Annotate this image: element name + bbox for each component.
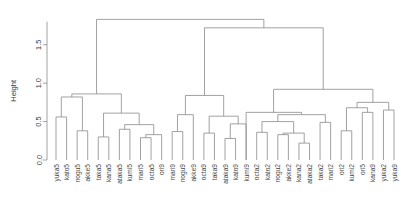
leaf-label: kato2 — [264, 164, 271, 180]
leaf-label: nogu5 — [74, 164, 82, 183]
dendrogram-branch — [274, 89, 373, 112]
dendrogram-branch — [177, 115, 193, 160]
dendrogram-branch — [357, 102, 389, 110]
leaf-label: taka9 — [211, 164, 218, 180]
y-axis-tick-label: 1.0 — [35, 78, 44, 88]
dendrogram-branch — [209, 116, 238, 133]
dendrogram-branch — [362, 112, 373, 160]
y-axis-tick-label: 0.5 — [35, 116, 44, 126]
leaf-label: kana9 — [369, 164, 376, 182]
leaf-label: mari2 — [327, 164, 334, 181]
leaf-label: ataka5 — [116, 164, 123, 184]
leaf-label: kato9 — [232, 164, 239, 180]
dendrogram-branch — [185, 95, 223, 116]
dendrogram-branch — [56, 117, 67, 160]
leaf-label: kumi2 — [348, 164, 355, 182]
dendrogram-branch — [299, 143, 310, 160]
dendrogram-branch — [341, 131, 352, 160]
y-axis-tick-label: 1.5 — [35, 40, 44, 50]
dendrogram-branch — [346, 108, 367, 131]
leaf-label: kato5 — [63, 164, 70, 180]
dendrogram-branch — [225, 138, 236, 160]
y-axis-ticks: 0.00.51.01.5 — [35, 40, 48, 166]
leaf-label: kana2 — [295, 164, 302, 182]
leaf-label: kumi5 — [126, 164, 133, 182]
dendrogram-branch — [230, 124, 246, 160]
dendrogram-branch — [61, 97, 82, 131]
leaf-label: nogu9 — [179, 164, 187, 183]
leaf-label: ori5 — [359, 164, 366, 175]
leaf-label: mari5 — [137, 164, 144, 181]
leaf-label: yuka9 — [391, 164, 399, 182]
axis-group: 0.00.51.01.5 Height — [10, 22, 48, 165]
dendrogram-branch — [77, 131, 88, 160]
leaf-label: octa2 — [253, 164, 260, 180]
leaf-label: nogu2 — [274, 164, 282, 183]
dendrogram-branch — [246, 112, 301, 160]
dendrogram-branch — [205, 28, 324, 96]
leaf-label: akke9 — [190, 164, 197, 182]
leaf-label: ataka2 — [306, 164, 313, 184]
leaf-label: ataka9 — [222, 164, 229, 184]
leaf-label: octa9 — [200, 164, 207, 180]
leaf-label: yuka2 — [380, 164, 388, 182]
dendrogram-branch — [383, 110, 394, 160]
dendrogram-branch — [278, 135, 289, 160]
dendrogram-branch — [119, 129, 130, 160]
leaf-label: ori2 — [338, 164, 345, 175]
dendrogram-branch — [172, 132, 183, 160]
dendrogram-branch — [257, 132, 268, 160]
leaf-labels: yuka5kato5nogu5akke5taka5kana5ataka5kumi… — [53, 164, 399, 184]
dendrogram-branch — [98, 137, 109, 160]
y-axis-tick-label: 0.0 — [35, 155, 44, 165]
leaf-label: ori9 — [158, 164, 165, 175]
leaf-label: kumi9 — [243, 164, 250, 182]
dendrogram-branch — [141, 138, 152, 160]
dendrogram-branch — [204, 133, 215, 160]
y-axis-title: Height — [10, 79, 19, 102]
leaf-label: akke2 — [285, 164, 292, 182]
leaf-label: yuka5 — [53, 164, 61, 182]
leaf-label: taka5 — [95, 164, 102, 180]
dendrogram-branches — [56, 19, 394, 160]
dendrogram-branch — [262, 122, 294, 134]
dendrogram-branch — [97, 19, 264, 94]
dendrogram-plot: 0.00.51.01.5 Height yuka5kato5nogu5akke5… — [0, 0, 406, 215]
leaf-label: mari9 — [169, 164, 176, 181]
dendrogram-branch — [146, 135, 162, 160]
leaf-label: akke5 — [84, 164, 91, 182]
dendrogram-branch — [320, 122, 331, 160]
leaf-label: octa5 — [148, 164, 155, 180]
plot-canvas: 0.00.51.01.5 Height yuka5kato5nogu5akke5… — [0, 0, 406, 215]
leaf-label: taka2 — [317, 164, 324, 180]
leaf-label: kana5 — [105, 164, 112, 182]
